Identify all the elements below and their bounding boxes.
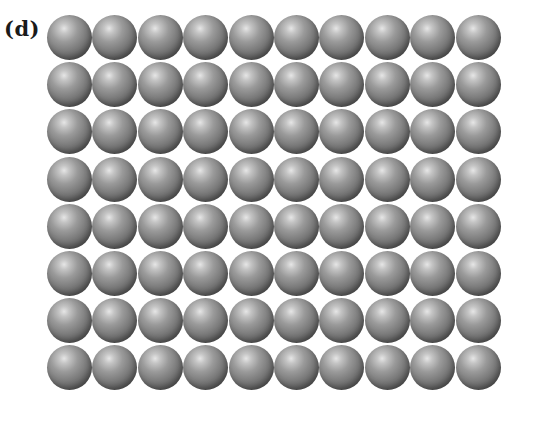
sphere-atom bbox=[92, 251, 137, 296]
sphere-atom bbox=[365, 62, 410, 107]
sphere-atom bbox=[47, 15, 92, 60]
sphere-atom bbox=[183, 157, 228, 202]
sphere-atom bbox=[319, 157, 364, 202]
sphere-atom bbox=[138, 298, 183, 343]
sphere-atom bbox=[92, 345, 137, 390]
sphere-atom bbox=[138, 15, 183, 60]
sphere-atom bbox=[47, 251, 92, 296]
sphere-atom bbox=[456, 62, 501, 107]
sphere-atom bbox=[274, 15, 319, 60]
sphere-atom bbox=[410, 298, 455, 343]
sphere-atom bbox=[410, 62, 455, 107]
sphere-atom bbox=[274, 251, 319, 296]
sphere-atom bbox=[183, 204, 228, 249]
sphere-atom bbox=[365, 251, 410, 296]
sphere-atom bbox=[456, 345, 501, 390]
sphere-atom bbox=[410, 204, 455, 249]
sphere-lattice bbox=[47, 15, 501, 393]
sphere-atom bbox=[456, 298, 501, 343]
sphere-atom bbox=[138, 251, 183, 296]
sphere-atom bbox=[365, 157, 410, 202]
sphere-atom bbox=[456, 251, 501, 296]
sphere-atom bbox=[229, 204, 274, 249]
sphere-atom bbox=[47, 345, 92, 390]
sphere-atom bbox=[92, 109, 137, 154]
sphere-atom bbox=[456, 204, 501, 249]
sphere-atom bbox=[92, 15, 137, 60]
sphere-atom bbox=[183, 62, 228, 107]
sphere-atom bbox=[365, 15, 410, 60]
sphere-atom bbox=[183, 109, 228, 154]
sphere-atom bbox=[229, 15, 274, 60]
sphere-atom bbox=[274, 345, 319, 390]
sphere-atom bbox=[274, 298, 319, 343]
sphere-atom bbox=[410, 345, 455, 390]
sphere-atom bbox=[319, 15, 364, 60]
sphere-atom bbox=[229, 251, 274, 296]
sphere-atom bbox=[319, 345, 364, 390]
sphere-atom bbox=[229, 62, 274, 107]
sphere-atom bbox=[410, 15, 455, 60]
sphere-atom bbox=[274, 62, 319, 107]
sphere-atom bbox=[138, 345, 183, 390]
sphere-atom bbox=[92, 62, 137, 107]
sphere-atom bbox=[319, 62, 364, 107]
sphere-atom bbox=[365, 345, 410, 390]
sphere-atom bbox=[274, 204, 319, 249]
sphere-atom bbox=[410, 157, 455, 202]
sphere-atom bbox=[410, 251, 455, 296]
sphere-atom bbox=[138, 109, 183, 154]
sphere-atom bbox=[319, 298, 364, 343]
sphere-atom bbox=[365, 298, 410, 343]
sphere-atom bbox=[138, 62, 183, 107]
sphere-atom bbox=[183, 251, 228, 296]
sphere-atom bbox=[138, 204, 183, 249]
sphere-atom bbox=[183, 15, 228, 60]
sphere-atom bbox=[92, 298, 137, 343]
sphere-atom bbox=[274, 109, 319, 154]
sphere-atom bbox=[47, 157, 92, 202]
sphere-atom bbox=[47, 204, 92, 249]
sphere-atom bbox=[365, 109, 410, 154]
sphere-atom bbox=[229, 345, 274, 390]
panel-label: (d) bbox=[4, 16, 40, 41]
sphere-atom bbox=[365, 204, 410, 249]
sphere-atom bbox=[319, 204, 364, 249]
sphere-atom bbox=[456, 157, 501, 202]
sphere-atom bbox=[229, 109, 274, 154]
sphere-atom bbox=[319, 109, 364, 154]
sphere-atom bbox=[456, 15, 501, 60]
sphere-atom bbox=[47, 62, 92, 107]
sphere-atom bbox=[229, 298, 274, 343]
sphere-atom bbox=[47, 298, 92, 343]
sphere-atom bbox=[138, 157, 183, 202]
sphere-atom bbox=[274, 157, 319, 202]
sphere-atom bbox=[92, 204, 137, 249]
sphere-atom bbox=[183, 298, 228, 343]
sphere-atom bbox=[319, 251, 364, 296]
sphere-atom bbox=[47, 109, 92, 154]
sphere-atom bbox=[410, 109, 455, 154]
sphere-atom bbox=[229, 157, 274, 202]
sphere-atom bbox=[92, 157, 137, 202]
sphere-atom bbox=[183, 345, 228, 390]
sphere-atom bbox=[456, 109, 501, 154]
